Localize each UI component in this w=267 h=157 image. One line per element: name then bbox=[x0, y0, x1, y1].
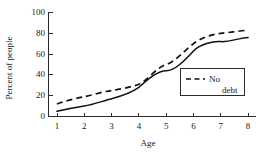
chart-container: Percent of people 100 80 60 40 20 0 bbox=[0, 0, 267, 157]
x-tick-label-1: 1 bbox=[55, 121, 60, 131]
legend-label-line1: No bbox=[209, 74, 220, 84]
y-tick-label-0: 0 bbox=[41, 111, 46, 121]
x-tick-marks bbox=[57, 113, 248, 117]
y-tick-marks bbox=[49, 13, 53, 117]
y-axis-title: Percent of people bbox=[4, 37, 14, 100]
legend-label-line2: debt bbox=[222, 85, 238, 95]
y-tick-label-20: 20 bbox=[36, 90, 46, 100]
x-tick-label-8: 8 bbox=[246, 121, 251, 131]
y-tick-label-80: 80 bbox=[36, 28, 46, 38]
x-tick-label-6: 6 bbox=[191, 121, 196, 131]
line-chart: Percent of people 100 80 60 40 20 0 bbox=[0, 0, 267, 157]
y-tick-label-100: 100 bbox=[32, 7, 46, 17]
y-tick-label-60: 60 bbox=[36, 49, 46, 59]
x-tick-label-5: 5 bbox=[164, 121, 169, 131]
chart-legend[interactable]: No debt bbox=[181, 69, 245, 96]
x-tick-label-7: 7 bbox=[219, 121, 224, 131]
x-tick-label-3: 3 bbox=[109, 121, 114, 131]
y-tick-label-40: 40 bbox=[36, 69, 46, 79]
x-tick-label-2: 2 bbox=[82, 121, 87, 131]
x-axis-title: Age bbox=[141, 138, 156, 148]
x-tick-label-4: 4 bbox=[137, 121, 142, 131]
